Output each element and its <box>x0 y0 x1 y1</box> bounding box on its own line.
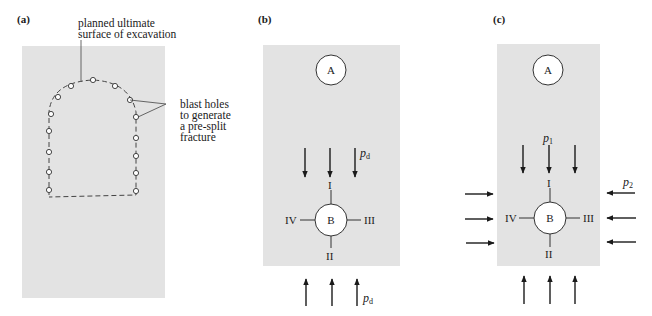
blast-hole <box>133 188 138 193</box>
blast-hole <box>48 111 53 116</box>
load-arrows-right <box>607 193 636 242</box>
opening-a-label: A <box>327 64 335 76</box>
rock-mass-a <box>22 46 165 298</box>
blast-hole <box>133 114 138 119</box>
blast-hole <box>46 187 51 192</box>
position-II-label: II <box>545 248 553 260</box>
blast-holes-annotation-line4: fracture <box>180 131 216 143</box>
blast-hole <box>46 128 51 133</box>
position-I-label: I <box>328 179 332 191</box>
load-label-p2: p2 <box>622 175 633 190</box>
position-III-label: III <box>583 212 594 224</box>
load-arrows-left <box>465 194 494 243</box>
blast-hole <box>133 135 138 140</box>
blast-hole <box>46 169 51 174</box>
blast-hole <box>68 83 73 88</box>
figure-canvas: (a) planned ultimate surface of excavati… <box>0 0 652 316</box>
panel-a: (a) planned ultimate surface of excavati… <box>17 13 231 298</box>
panel-b: (b) A pd B I II III IV pd <box>258 13 400 306</box>
panel-c: (c) A p1 p2 B I II <box>465 13 636 304</box>
panel-b-label: (b) <box>258 13 272 26</box>
load-label-pd-bottom: pd <box>362 291 373 306</box>
opening-b-label: B <box>546 212 553 224</box>
blast-hole <box>55 94 60 99</box>
position-IV-label: IV <box>505 212 517 224</box>
blast-hole <box>133 153 138 158</box>
opening-b-label: B <box>327 214 334 226</box>
position-I-label: I <box>547 177 551 189</box>
surface-annotation-line2: surface of excavation <box>78 28 177 40</box>
position-II-label: II <box>326 250 334 262</box>
panel-c-label: (c) <box>493 13 506 26</box>
opening-a-label: A <box>544 64 552 76</box>
panel-a-label: (a) <box>17 13 30 26</box>
load-arrows-bottom <box>524 276 575 304</box>
position-IV-label: IV <box>285 214 297 226</box>
blast-hole <box>112 83 117 88</box>
blast-hole <box>133 170 138 175</box>
load-arrows-bottom <box>306 279 357 306</box>
blast-hole <box>90 77 95 82</box>
blast-hole <box>46 149 51 154</box>
position-III-label: III <box>364 214 375 226</box>
